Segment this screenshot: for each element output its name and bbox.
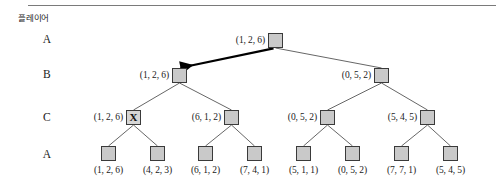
tree-edge-root-to-b-right <box>276 48 382 68</box>
node-value-label-leaf-3: (6, 1, 2) <box>182 165 230 175</box>
tree-node-leaf-4 <box>247 146 262 161</box>
tree-edge-c-4-to-leaf-8 <box>428 125 451 146</box>
tree-node-c-1: X <box>126 110 141 125</box>
node-value-label-leaf-6: (0, 5, 2) <box>329 165 377 175</box>
game-tree-figure: 플레이어 ABCA (1, 2, 6)(1, 2, 6)(0, 5, 2)X(1… <box>0 0 503 191</box>
tree-edge-b-left-to-c-1 <box>134 83 180 110</box>
tree-edge-c-1-to-leaf-1 <box>109 125 134 146</box>
node-value-label-c-2: (6, 1, 2) <box>173 112 221 122</box>
tree-node-leaf-2 <box>150 146 165 161</box>
node-value-label-c-4: (5, 4, 5) <box>369 112 417 122</box>
row-label-row-c: C <box>27 111 67 123</box>
pruned-x-icon: X <box>127 111 140 124</box>
tree-node-leaf-7 <box>394 146 409 161</box>
tree-node-leaf-3 <box>198 146 213 161</box>
tree-node-b-right <box>374 68 389 83</box>
tree-edge-root-to-b-left <box>180 48 273 67</box>
tree-node-b-left <box>172 68 187 83</box>
row-label-row-b: B <box>27 68 67 80</box>
node-value-label-leaf-8: (5, 4, 5) <box>427 165 475 175</box>
node-value-label-root: (1, 2, 6) <box>217 35 265 45</box>
tree-edge-c-3-to-leaf-6 <box>328 125 353 146</box>
tree-node-leaf-5 <box>296 146 311 161</box>
tree-edge-c-4-to-leaf-7 <box>402 125 428 146</box>
tree-edge-c-2-to-leaf-3 <box>206 125 232 146</box>
node-value-label-b-left: (1, 2, 6) <box>121 70 169 80</box>
top-divider-rule <box>28 5 496 6</box>
tree-edge-b-right-to-c-3 <box>328 83 382 110</box>
tree-edges <box>109 48 451 146</box>
player-column-header: 플레이어 <box>18 11 49 23</box>
tree-edge-b-left-to-c-2 <box>180 83 232 110</box>
tree-node-c-4 <box>420 110 435 125</box>
tree-node-leaf-1 <box>101 146 116 161</box>
node-value-label-leaf-4: (7, 4, 1) <box>231 165 279 175</box>
node-value-label-leaf-2: (4, 2, 3) <box>134 165 182 175</box>
node-value-label-c-3: (0, 5, 2) <box>269 112 317 122</box>
node-value-label-leaf-1: (1, 2, 6) <box>85 165 133 175</box>
tree-edge-c-3-to-leaf-5 <box>304 125 328 146</box>
tree-node-c-3 <box>320 110 335 125</box>
tree-edge-layer <box>0 0 503 191</box>
node-value-label-b-right: (0, 5, 2) <box>323 70 371 80</box>
node-value-label-leaf-7: (7, 7, 1) <box>378 165 426 175</box>
tree-edge-b-right-to-c-4 <box>382 83 428 110</box>
node-value-label-c-1: (1, 2, 6) <box>75 112 123 122</box>
tree-edge-c-2-to-leaf-4 <box>232 125 255 146</box>
tree-node-leaf-6 <box>345 146 360 161</box>
tree-node-root <box>268 33 283 48</box>
row-label-row-a-bottom: A <box>27 148 67 160</box>
node-value-label-leaf-5: (5, 1, 1) <box>280 165 328 175</box>
tree-node-c-2 <box>224 110 239 125</box>
tree-node-leaf-8 <box>443 146 458 161</box>
row-label-row-a-top: A <box>27 33 67 45</box>
tree-edge-c-1-to-leaf-2 <box>134 125 158 146</box>
